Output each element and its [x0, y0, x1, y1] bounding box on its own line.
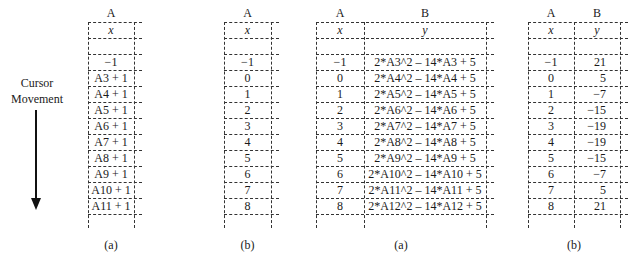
cursor-movement-label: Cursor Movement [2, 75, 72, 107]
grid-line-horizontal [316, 214, 494, 215]
table-cell[interactable]: −1 [88, 54, 134, 70]
table-cell[interactable]: 0 [316, 70, 364, 86]
table-cell[interactable]: −19 [574, 134, 606, 150]
table-cell[interactable]: 1 [528, 86, 574, 102]
table-cell[interactable]: A8 + 1 [88, 150, 134, 166]
figure-caption: (b) [528, 238, 620, 252]
table-cell[interactable]: 5 [574, 182, 606, 198]
table-cell[interactable]: 2*A9^2 – 14*A9 + 5 [364, 150, 486, 166]
table-cell[interactable]: A7 + 1 [88, 134, 134, 150]
table-cell[interactable]: 1 [316, 86, 364, 102]
column-header-x[interactable]: x [528, 22, 574, 38]
grid-line-vertical [486, 22, 487, 228]
table-cell[interactable]: −1 [528, 54, 574, 70]
table-cell[interactable]: 5 [528, 150, 574, 166]
figure-caption: (a) [316, 238, 486, 252]
arrow-head [31, 198, 41, 210]
table-cell[interactable]: −15 [574, 102, 606, 118]
column-header-y[interactable]: y [574, 22, 620, 38]
table-cell[interactable]: 3 [528, 118, 574, 134]
table-cell[interactable]: 3 [224, 118, 271, 134]
table-cell[interactable]: 2*A11^2 – 14*A11 + 5 [364, 182, 486, 198]
table-cell[interactable]: 2*A12^2 – 14*A12 + 5 [364, 198, 486, 214]
column-letter-a[interactable]: A [528, 6, 574, 20]
table-cell[interactable]: 2*A8^2 – 14*A8 + 5 [364, 134, 486, 150]
figure-caption: (a) [88, 238, 134, 252]
grid-line-horizontal [316, 38, 494, 39]
cursor-label-line2: Movement [2, 91, 72, 107]
table-cell[interactable]: 0 [224, 70, 271, 86]
cursor-label-line1: Cursor [2, 75, 72, 91]
grid-line-horizontal [528, 214, 628, 215]
table-cell[interactable]: 2*A3^2 – 14*A3 + 5 [364, 54, 486, 70]
table-cell[interactable]: 8 [224, 198, 271, 214]
table-cell[interactable]: −15 [574, 150, 606, 166]
table-cell[interactable]: 6 [528, 166, 574, 182]
table-cell[interactable]: −19 [574, 118, 606, 134]
figure-caption: (b) [224, 238, 271, 252]
table-cell[interactable]: 8 [528, 198, 574, 214]
column-letter-a[interactable]: A [224, 6, 271, 20]
table-cell[interactable]: 5 [316, 150, 364, 166]
table-cell[interactable]: −7 [574, 86, 606, 102]
column-header-x[interactable]: x [316, 22, 364, 38]
table-cell[interactable]: 6 [224, 166, 271, 182]
table-cell[interactable]: 2*A4^2 – 14*A4 + 5 [364, 70, 486, 86]
table-cell[interactable]: A10 + 1 [88, 182, 134, 198]
table-cell[interactable]: 2*A6^2 – 14*A6 + 5 [364, 102, 486, 118]
table-cell[interactable]: 21 [574, 198, 606, 214]
table-cell[interactable]: 7 [224, 182, 271, 198]
table-cell[interactable]: 4 [316, 134, 364, 150]
table-cell[interactable]: A6 + 1 [88, 118, 134, 134]
table-cell[interactable]: 8 [316, 198, 364, 214]
grid-line-horizontal [528, 38, 628, 39]
table-cell[interactable]: 0 [528, 70, 574, 86]
table-cell[interactable]: −1 [316, 54, 364, 70]
column-header-y[interactable]: y [364, 22, 486, 38]
grid-line-vertical [134, 22, 135, 228]
table-cell[interactable]: 7 [528, 182, 574, 198]
column-letter-a[interactable]: A [88, 6, 134, 20]
table-cell[interactable]: 5 [224, 150, 271, 166]
table-cell[interactable]: A4 + 1 [88, 86, 134, 102]
table-cell[interactable]: 2 [224, 102, 271, 118]
grid-line-vertical [620, 22, 621, 228]
arrow-shaft [35, 110, 37, 200]
table-cell[interactable]: 4 [224, 134, 271, 150]
table-cell[interactable]: −1 [224, 54, 271, 70]
table-cell[interactable]: A11 + 1 [88, 198, 134, 214]
table-cell[interactable]: 21 [574, 54, 606, 70]
table-cell[interactable]: 5 [574, 70, 606, 86]
table-cell[interactable]: A3 + 1 [88, 70, 134, 86]
table-cell[interactable]: A5 + 1 [88, 102, 134, 118]
column-header-x[interactable]: x [88, 22, 134, 38]
column-letter-a[interactable]: A [316, 6, 364, 20]
table-cell[interactable]: 3 [316, 118, 364, 134]
column-letter-b[interactable]: B [364, 6, 486, 20]
table-cell[interactable]: 2 [316, 102, 364, 118]
column-letter-b[interactable]: B [574, 6, 620, 20]
table-cell[interactable]: 2 [528, 102, 574, 118]
table-cell[interactable]: 1 [224, 86, 271, 102]
column-header-x[interactable]: x [224, 22, 271, 38]
table-cell[interactable]: 6 [316, 166, 364, 182]
table-cell[interactable]: −7 [574, 166, 606, 182]
table-cell[interactable]: 2*A10^2 – 14*A10 + 5 [364, 166, 486, 182]
table-cell[interactable]: 2*A7^2 – 14*A7 + 5 [364, 118, 486, 134]
table-cell[interactable]: A9 + 1 [88, 166, 134, 182]
table-cell[interactable]: 4 [528, 134, 574, 150]
table-cell[interactable]: 2*A5^2 – 14*A5 + 5 [364, 86, 486, 102]
grid-line-vertical [271, 22, 272, 228]
table-cell[interactable]: 7 [316, 182, 364, 198]
